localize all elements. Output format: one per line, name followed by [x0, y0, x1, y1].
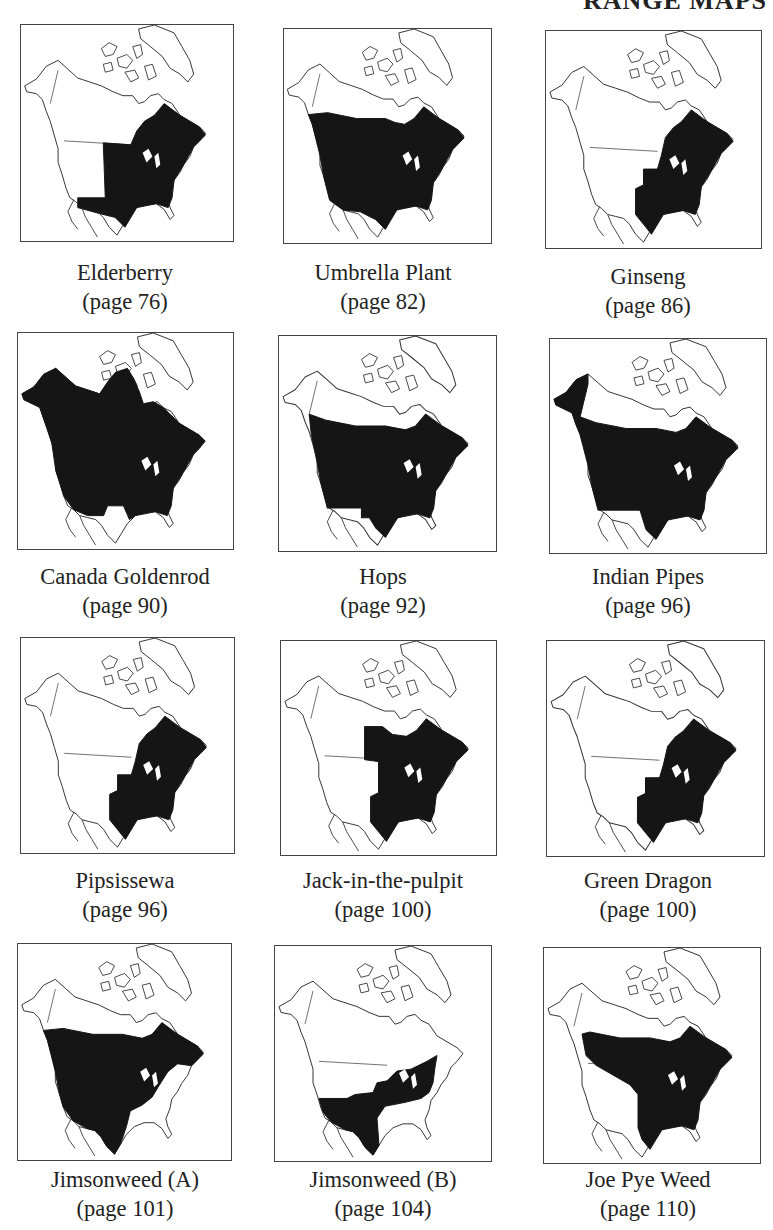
range-map-frame: [543, 947, 761, 1164]
range-map-frame: [20, 24, 234, 242]
range-map-caption: Ginseng(page 86): [523, 262, 773, 320]
north-america-map: [7, 25, 233, 241]
page-header: RANGE MAPS: [583, 0, 767, 16]
plant-name: Umbrella Plant: [258, 258, 508, 287]
page-reference: (page 100): [523, 895, 773, 924]
species-range-area: [308, 107, 464, 230]
page-reference: (page 96): [0, 895, 250, 924]
north-america-map: [4, 944, 231, 1160]
range-map-caption: Jimsonweed (B)(page 104): [258, 1165, 508, 1223]
range-map-frame: [274, 945, 492, 1162]
range-map-caption: Elderberry(page 76): [0, 258, 250, 316]
range-map-frame: [278, 335, 497, 552]
north-america-map: [270, 29, 491, 243]
page-reference: (page 90): [0, 591, 250, 620]
arctic-islands-outline: [99, 962, 154, 1001]
range-map-caption: Hops(page 92): [258, 562, 508, 620]
range-map-frame: [546, 640, 765, 857]
plant-name: Ginseng: [523, 262, 773, 291]
page-reference: (page 100): [258, 895, 508, 924]
page-reference: (page 101): [0, 1194, 250, 1223]
arctic-islands-outline: [632, 357, 688, 396]
range-map-caption: Umbrella Plant(page 82): [258, 258, 508, 316]
arctic-islands-outline: [361, 354, 417, 393]
range-map-frame: [545, 30, 762, 249]
plant-name: Indian Pipes: [523, 562, 773, 591]
range-map-frame: [17, 943, 232, 1161]
plant-name: Jimsonweed (B): [258, 1165, 508, 1194]
species-range-area: [309, 414, 468, 537]
north-america-map: [261, 946, 491, 1161]
north-america-map: [536, 339, 766, 553]
species-range-area: [22, 368, 205, 519]
plant-name: Pipsissewa: [0, 866, 250, 895]
range-map-frame: [283, 28, 492, 244]
page-reference: (page 86): [523, 291, 773, 320]
range-map-frame: [549, 338, 767, 554]
page-reference: (page 96): [523, 591, 773, 620]
north-america-map: [4, 333, 233, 549]
page-reference: (page 92): [258, 591, 508, 620]
page-reference: (page 82): [258, 287, 508, 316]
arctic-islands-outline: [629, 659, 685, 698]
plant-name: Jack-in-the-pulpit: [258, 866, 508, 895]
page-reference: (page 76): [0, 287, 250, 316]
plant-name: Hops: [258, 562, 508, 591]
species-range-area: [365, 719, 469, 842]
arctic-islands-outline: [102, 656, 157, 695]
range-map-frame: [20, 637, 235, 854]
arctic-islands-outline: [362, 47, 416, 86]
plant-name: Joe Pye Weed: [523, 1165, 773, 1194]
arctic-islands-outline: [357, 964, 413, 1003]
range-map-frame: [17, 332, 234, 550]
north-america-map: [265, 336, 496, 551]
range-map-caption: Canada Goldenrod(page 90): [0, 562, 250, 620]
species-range-area: [554, 374, 738, 539]
plant-name: Jimsonweed (A): [0, 1165, 250, 1194]
arctic-islands-outline: [101, 43, 156, 82]
plant-name: Canada Goldenrod: [0, 562, 250, 591]
arctic-islands-outline: [628, 49, 684, 88]
page-reference: (page 104): [258, 1194, 508, 1223]
range-map-caption: Green Dragon(page 100): [523, 866, 773, 924]
plant-name: Elderberry: [0, 258, 250, 287]
arctic-islands-outline: [363, 659, 419, 698]
page-reference: (page 110): [523, 1194, 773, 1223]
north-america-map: [530, 948, 760, 1163]
north-america-map: [532, 31, 761, 248]
arctic-islands-outline: [626, 966, 682, 1005]
north-america-map: [267, 641, 496, 855]
range-map-caption: Jack-in-the-pulpit(page 100): [258, 866, 508, 924]
range-map-caption: Pipsissewa(page 96): [0, 866, 250, 924]
range-map-caption: Joe Pye Weed(page 110): [523, 1165, 773, 1223]
north-america-map: [7, 638, 234, 853]
range-map-frame: [280, 640, 497, 856]
range-map-caption: Jimsonweed (A)(page 101): [0, 1165, 250, 1223]
range-map-caption: Indian Pipes(page 96): [523, 562, 773, 620]
plant-name: Green Dragon: [523, 866, 773, 895]
north-america-map: [533, 641, 764, 856]
